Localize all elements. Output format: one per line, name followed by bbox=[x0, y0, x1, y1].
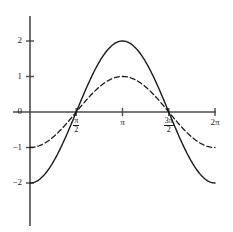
x-tick-label: 2π bbox=[200, 118, 230, 127]
plot-area bbox=[0, 0, 233, 232]
y-tick-label: 0 bbox=[2, 107, 22, 116]
fraction-label: π2 bbox=[73, 117, 79, 134]
y-tick-label: 2 bbox=[2, 36, 22, 45]
y-tick-label: −1 bbox=[2, 143, 22, 152]
fraction-denominator: 2 bbox=[164, 126, 174, 134]
y-tick-label: 1 bbox=[2, 72, 22, 81]
fraction-label: 3π2 bbox=[164, 117, 174, 134]
y-tick-label: −2 bbox=[2, 178, 22, 187]
x-tick-label: π bbox=[108, 118, 138, 127]
fraction-denominator: 2 bbox=[73, 126, 79, 134]
chart-figure: 210−1−2 π2π3π22π bbox=[0, 0, 233, 232]
x-tick-label: π2 bbox=[61, 117, 91, 134]
x-tick-label: 3π2 bbox=[154, 117, 184, 134]
